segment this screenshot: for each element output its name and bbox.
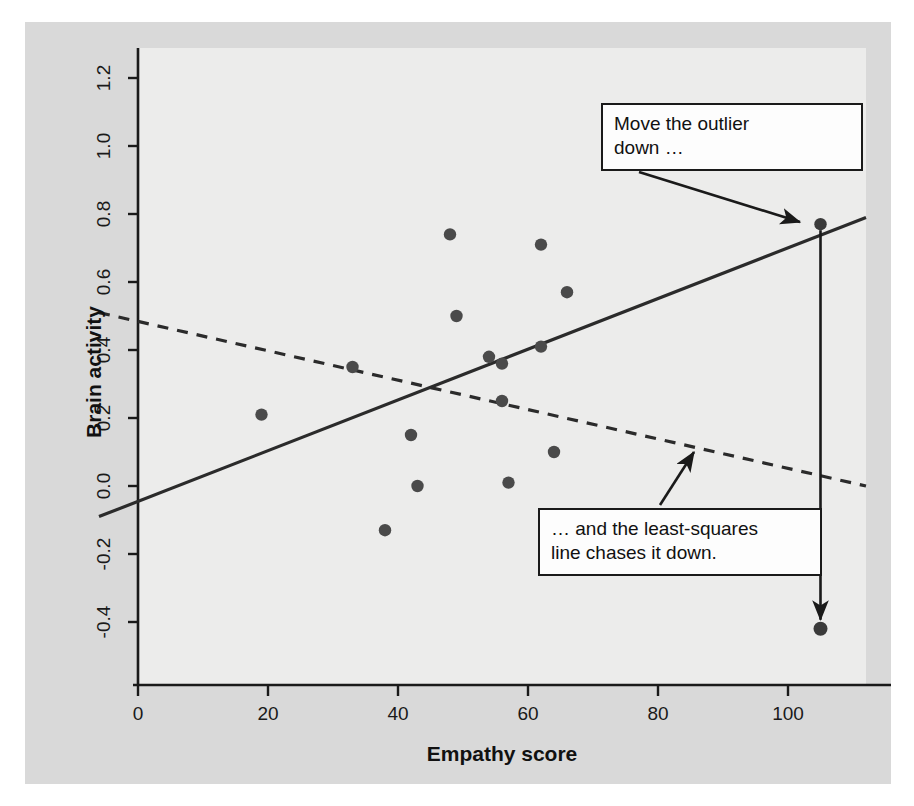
x-tick-label-4: 80: [633, 703, 683, 725]
annotation-least-squares-chases: … and the least-squares line chases it d…: [538, 508, 822, 576]
data-point-8: [496, 357, 508, 369]
figure-container: -0.4-0.20.00.20.40.60.81.01.2 0204060801…: [0, 0, 914, 806]
data-point-2: [379, 524, 391, 536]
regression-lines: [99, 217, 866, 516]
data-point-9: [496, 395, 508, 407]
regression-line-solid: [99, 217, 866, 516]
callout-leader-lines: [639, 172, 800, 505]
data-point-6: [450, 310, 462, 322]
y-tick-label-0: -0.4: [93, 592, 115, 652]
regression-line-dashed: [99, 313, 866, 486]
y-axis-ticks: [128, 78, 138, 622]
x-tick-label-5: 100: [763, 703, 813, 725]
outlier-point-original: [814, 218, 826, 230]
data-point-5: [444, 228, 456, 240]
y-tick-label-7: 1.0: [93, 116, 115, 176]
leader-line-outlier: [639, 172, 800, 222]
outlier-point-moved: [814, 622, 828, 636]
y-tick-label-1: -0.2: [93, 524, 115, 584]
data-point-10: [502, 476, 514, 488]
data-point-14: [561, 286, 573, 298]
x-axis-ticks: [138, 685, 788, 696]
data-point-0: [255, 408, 267, 420]
data-point-1: [346, 361, 358, 373]
x-tick-label-0: 0: [113, 703, 163, 725]
data-point-7: [483, 351, 495, 363]
y-tick-label-8: 1.2: [93, 48, 115, 108]
leader-line-leastsq: [660, 452, 694, 505]
x-axis-title: Empathy score: [138, 742, 866, 766]
y-axis-title: Brain activity: [82, 272, 106, 472]
data-point-3: [405, 429, 417, 441]
x-tick-label-3: 60: [503, 703, 553, 725]
x-tick-label-2: 40: [373, 703, 423, 725]
data-point-12: [535, 340, 547, 352]
y-tick-label-6: 0.8: [93, 184, 115, 244]
data-point-4: [411, 480, 423, 492]
data-point-13: [548, 446, 560, 458]
data-point-11: [535, 238, 547, 250]
annotation-move-outlier-down: Move the outlier down …: [601, 103, 863, 171]
x-tick-label-1: 20: [243, 703, 293, 725]
